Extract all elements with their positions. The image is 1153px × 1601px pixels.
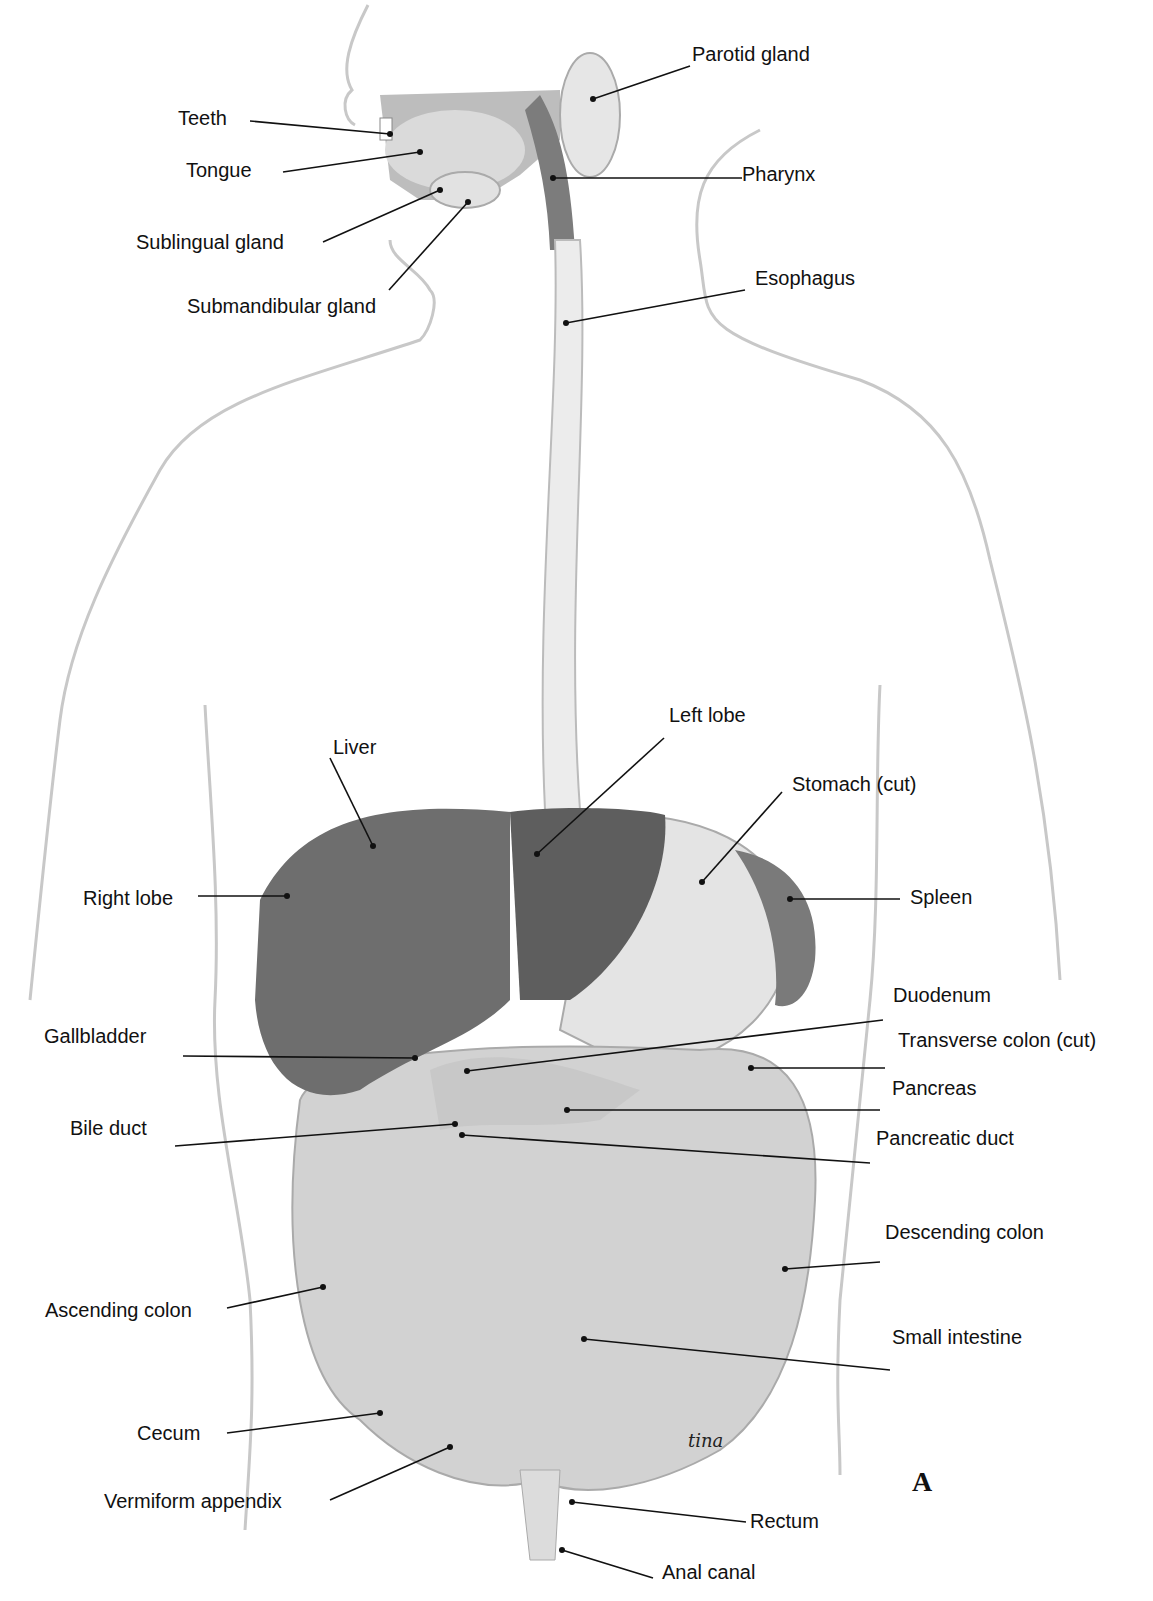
esophagus-shape — [543, 240, 583, 810]
label-teeth: Teeth — [178, 108, 227, 128]
label-rectum: Rectum — [750, 1511, 819, 1531]
label-duodenum: Duodenum — [893, 985, 991, 1005]
artist-signature: tina — [688, 1430, 723, 1451]
head-organs — [380, 53, 620, 250]
label-stomach-cut: Stomach (cut) — [792, 774, 916, 794]
label-anal-canal: Anal canal — [662, 1562, 755, 1582]
label-transverse-colon-cut: Transverse colon (cut) — [898, 1030, 1096, 1050]
label-vermiform-appendix: Vermiform appendix — [104, 1491, 282, 1511]
label-ascending-colon: Ascending colon — [45, 1300, 192, 1320]
label-left-lobe: Left lobe — [669, 705, 746, 725]
label-esophagus: Esophagus — [755, 268, 855, 288]
label-right-lobe: Right lobe — [83, 888, 173, 908]
label-pharynx: Pharynx — [742, 164, 815, 184]
panel-letter: A — [912, 1466, 932, 1498]
label-pancreas: Pancreas — [892, 1078, 977, 1098]
label-cecum: Cecum — [137, 1423, 200, 1443]
label-submandibular-gland: Submandibular gland — [187, 296, 376, 316]
label-small-intestine: Small intestine — [892, 1327, 1022, 1347]
label-tongue: Tongue — [186, 160, 252, 180]
label-pancreatic-duct: Pancreatic duct — [876, 1128, 1014, 1148]
label-spleen: Spleen — [910, 887, 972, 907]
label-bile-duct: Bile duct — [70, 1118, 147, 1138]
label-sublingual-gland: Sublingual gland — [136, 232, 284, 252]
label-liver: Liver — [333, 737, 376, 757]
label-gallbladder: Gallbladder — [44, 1026, 146, 1046]
label-descending-colon: Descending colon — [885, 1222, 1044, 1242]
label-parotid-gland: Parotid gland — [692, 44, 810, 64]
